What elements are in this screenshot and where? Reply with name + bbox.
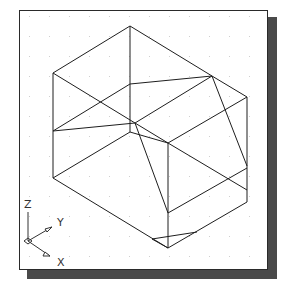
grid-dot xyxy=(49,56,50,57)
grid-dot xyxy=(109,116,110,117)
grid-dot xyxy=(89,96,90,97)
grid-dot xyxy=(229,16,230,17)
grid-dot xyxy=(189,16,190,17)
grid-dot xyxy=(109,236,110,237)
grid-dot xyxy=(29,236,30,237)
wireframe-edge xyxy=(135,123,168,213)
grid-dot xyxy=(49,116,50,117)
grid-dot xyxy=(209,116,210,117)
grid-dot xyxy=(249,196,250,197)
grid-dot xyxy=(149,76,150,77)
grid-dot xyxy=(169,216,170,217)
grid-dot xyxy=(249,36,250,37)
grid-dot xyxy=(169,196,170,197)
grid-dot xyxy=(189,176,190,177)
grid-dot xyxy=(109,256,110,257)
grid-dot xyxy=(209,56,210,57)
grid-dot xyxy=(209,36,210,37)
grid-dot xyxy=(89,76,90,77)
drawing-canvas[interactable]: Z Y X xyxy=(0,0,285,293)
grid-dot xyxy=(149,256,150,257)
grid-dot xyxy=(89,236,90,237)
grid-dot xyxy=(49,216,50,217)
grid-dot xyxy=(129,176,130,177)
grid-dot xyxy=(229,136,230,137)
grid-dot xyxy=(249,56,250,57)
grid-dot xyxy=(249,16,250,17)
grid-dot xyxy=(229,96,230,97)
wireframe-edge xyxy=(135,76,212,123)
grid-dot xyxy=(129,196,130,197)
wireframe-edge xyxy=(212,76,247,97)
grid-dot xyxy=(249,236,250,237)
grid-dot xyxy=(189,36,190,37)
ucs-z-label: Z xyxy=(24,198,32,211)
grid-dot xyxy=(49,176,50,177)
grid-dot xyxy=(209,156,210,157)
grid-dot xyxy=(109,56,110,57)
grid-dot xyxy=(69,96,70,97)
grid-dot xyxy=(229,56,230,57)
grid-dot xyxy=(29,116,30,117)
grid-dot xyxy=(149,16,150,17)
grid-dot xyxy=(149,136,150,137)
grid-dot xyxy=(49,36,50,37)
grid-dot xyxy=(129,256,130,257)
grid-dot xyxy=(109,176,110,177)
grid-dot xyxy=(189,56,190,57)
grid-dot xyxy=(49,236,50,237)
grid-dot xyxy=(189,96,190,97)
grid-dot xyxy=(29,156,30,157)
grid-dot xyxy=(229,176,230,177)
wireframe-edge xyxy=(53,132,130,178)
wireframe-edge xyxy=(212,76,247,166)
grid-dot xyxy=(169,156,170,157)
grid-dot xyxy=(209,196,210,197)
wireframe-edge xyxy=(168,202,247,248)
grid-dot xyxy=(249,176,250,177)
grid-dot xyxy=(109,76,110,77)
grid-dot xyxy=(89,176,90,177)
grid-dot xyxy=(169,136,170,137)
grid-dot xyxy=(149,116,150,117)
wireframe-edge xyxy=(130,76,212,84)
grid-dot xyxy=(69,256,70,257)
grid-dot xyxy=(29,136,30,137)
wireframe-edge xyxy=(130,26,212,76)
grid-dot xyxy=(249,216,250,217)
grid-dot xyxy=(129,216,130,217)
grid-dot xyxy=(89,56,90,57)
grid-dot xyxy=(89,196,90,197)
grid-dot xyxy=(69,16,70,17)
grid-dot xyxy=(69,156,70,157)
grid-dot xyxy=(249,116,250,117)
grid-dot xyxy=(69,196,70,197)
grid-dot xyxy=(109,196,110,197)
grid-dot xyxy=(209,216,210,217)
grid-dot xyxy=(129,16,130,17)
grid-dot xyxy=(49,76,50,77)
grid-dot xyxy=(69,56,70,57)
grid-dot xyxy=(229,36,230,37)
grid-dot xyxy=(169,76,170,77)
grid-dot xyxy=(109,156,110,157)
grid-dot xyxy=(69,116,70,117)
wireframe-edge xyxy=(53,123,135,131)
wireframe-edge xyxy=(168,168,247,213)
grid-dot xyxy=(69,236,70,237)
grid-dot xyxy=(229,216,230,217)
grid-dot xyxy=(209,136,210,137)
grid-dot xyxy=(49,16,50,17)
grid-dot xyxy=(169,116,170,117)
wireframe-edge xyxy=(53,84,130,131)
grid-dot xyxy=(89,116,90,117)
wireframe-edge xyxy=(130,132,168,143)
grid-dot xyxy=(169,36,170,37)
grid-dot xyxy=(89,36,90,37)
wireframe-edge xyxy=(53,178,168,248)
ucs-icon xyxy=(24,212,52,256)
grid-dot xyxy=(229,196,230,197)
grid-dot xyxy=(29,76,30,77)
grid-dot xyxy=(29,176,30,177)
grid-dot xyxy=(129,236,130,237)
